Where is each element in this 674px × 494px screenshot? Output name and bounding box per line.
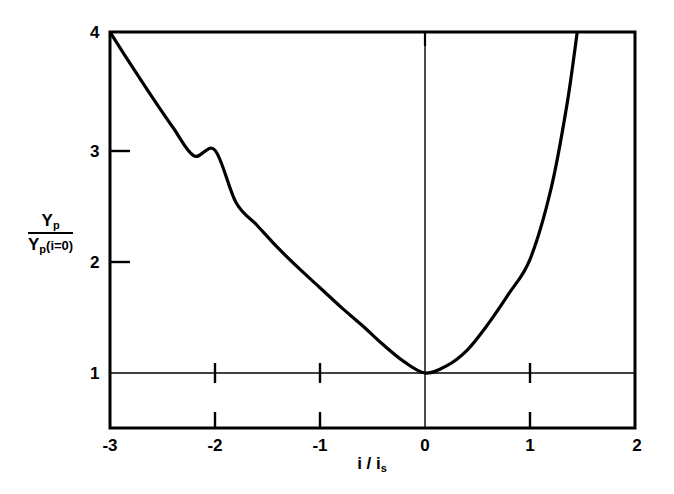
y-axis-title-numerator: Yp [28,212,73,234]
chart-figure: -3 -2 -1 0 1 2 4 3 2 1 i / is Yp Yp(i=0) [0,0,674,494]
x-axis-title: i / is [357,455,387,474]
plot-area [0,0,674,494]
y-tick-label-3: 3 [90,143,99,160]
x-tick-label-2: 2 [632,437,641,454]
y-tick-label-2: 2 [90,254,99,271]
y-axis-numerator-main: Y [42,211,53,230]
y-axis-denominator-condition: (i=0) [46,238,73,253]
x-tick-label--1: -1 [312,437,327,454]
y-axis-title: Yp Yp(i=0) [28,212,73,255]
x-tick-label--2: -2 [207,437,222,454]
y-axis-numerator-subscript: p [53,219,60,231]
x-axis-title-subscript: s [381,462,387,474]
x-tick-label--3: -3 [102,437,117,454]
x-axis-title-main: i / i [357,454,381,473]
x-tick-label-1: 1 [525,437,534,454]
y-tick-label-1: 1 [90,365,99,382]
y-axis-title-denominator: Yp(i=0) [28,234,73,255]
y-axis-title-fraction: Yp Yp(i=0) [28,212,73,255]
x-tick-label-0: 0 [420,437,429,454]
y-axis-denominator-main: Y [28,235,39,254]
y-tick-label-4: 4 [90,24,99,41]
